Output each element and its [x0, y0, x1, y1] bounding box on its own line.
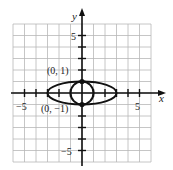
y-tick-label-pos5: 5 — [71, 31, 76, 42]
x-tick-label-neg5: −5 — [16, 101, 27, 112]
axes — [11, 8, 166, 166]
graph: x y −5 5 5 −5 (0, 1) (0, −1) — [0, 0, 173, 170]
y-tick-label-neg5: −5 — [61, 146, 72, 157]
intersection-point — [79, 79, 84, 84]
x-tick-label-pos5: 5 — [135, 101, 140, 112]
x-axis-label: x — [158, 92, 164, 104]
y-axis-arrow-icon — [79, 8, 85, 16]
y-axis-label: y — [71, 10, 77, 22]
point-label-top: (0, 1) — [47, 65, 69, 77]
intersection-point — [79, 102, 84, 107]
point-label-bottom: (0, −1) — [41, 103, 68, 115]
